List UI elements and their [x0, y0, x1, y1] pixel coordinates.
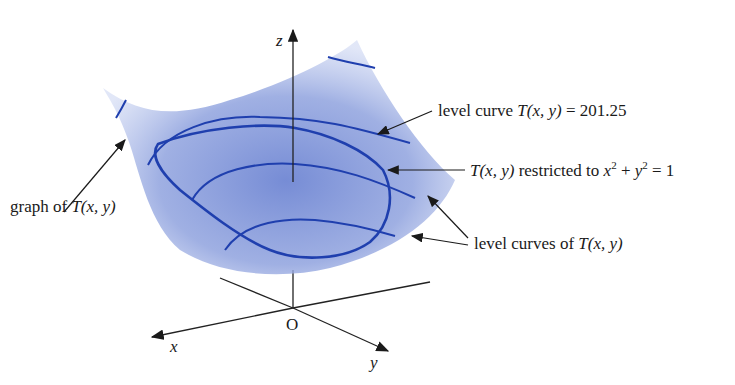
graph-label-func: T(x, y) — [71, 197, 115, 216]
x-axis-back — [220, 278, 293, 308]
level-curve-prefix: level curve — [438, 101, 517, 120]
level-curve-label: level curve T(x, y) = 201.25 — [438, 102, 627, 119]
x-axis — [152, 308, 293, 337]
y-axis — [293, 308, 388, 351]
y-axis-label: y — [370, 354, 378, 371]
arrow-level-curves-2 — [412, 236, 468, 245]
arrow-level-curves-1 — [428, 196, 468, 238]
restricted-eq: = 1 — [648, 161, 675, 180]
level-curves-func: T(x, y) — [578, 234, 622, 253]
graph-label: graph of T(x, y) — [10, 198, 116, 215]
level-curves-label: level curves of T(x, y) — [474, 235, 623, 252]
origin-label: O — [286, 316, 298, 333]
z-axis-label: z — [276, 32, 283, 49]
x-axis-label: x — [170, 338, 178, 355]
restricted-mid: restricted to — [514, 161, 603, 180]
restricted-label: T(x, y) restricted to x2 + y2 = 1 — [470, 162, 674, 179]
level-curve-func: T(x, y) — [517, 101, 561, 120]
figure: z x y O graph of T(x, y) level curve T(x… — [0, 0, 735, 385]
surface-plot — [0, 0, 735, 385]
restricted-plus: + — [617, 161, 635, 180]
restricted-func: T(x, y) — [470, 161, 514, 180]
y-axis-back — [293, 282, 430, 308]
level-curves-prefix: level curves of — [474, 234, 578, 253]
restricted-x: x — [604, 161, 612, 180]
level-curve-value: = 201.25 — [562, 101, 627, 120]
graph-label-prefix: graph of — [10, 197, 71, 216]
